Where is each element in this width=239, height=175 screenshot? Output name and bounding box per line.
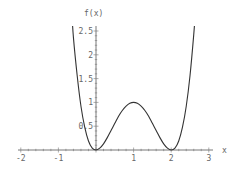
y-axis-label: f(x)	[84, 9, 103, 18]
function-plot: -2-11230.511.522.5 x f(x)	[0, 0, 239, 175]
x-tick-label: 1	[131, 154, 136, 163]
x-tick-label: 2	[169, 154, 174, 163]
x-axis-label: x	[222, 146, 227, 155]
x-tick-label: 3	[206, 154, 211, 163]
axes: -2-11230.511.522.5	[16, 26, 213, 163]
y-tick-label: 1.5	[79, 75, 94, 84]
y-tick-label: 2.5	[79, 27, 94, 36]
x-tick-label: -1	[54, 154, 64, 163]
y-tick-label: 1	[88, 98, 93, 107]
y-tick-label: 2	[88, 51, 93, 60]
x-tick-label: -2	[16, 154, 26, 163]
